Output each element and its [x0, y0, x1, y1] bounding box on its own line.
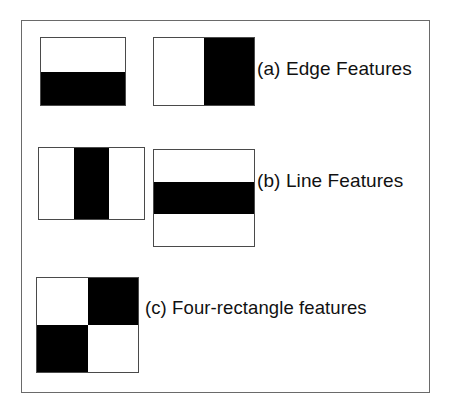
caption-line-features: (b) Line Features: [257, 171, 403, 190]
line-feature-vertical-bands: [38, 147, 145, 220]
edge-feature-vertical-split: [153, 37, 255, 106]
black-region-bottom: [41, 72, 125, 106]
edge-feature-horizontal-split: [40, 37, 126, 106]
black-region-center-column: [74, 148, 109, 219]
line-feature-horizontal-bands: [153, 149, 255, 247]
black-region-bottom-left: [37, 325, 88, 372]
figure-frame: (a) Edge Features (b) Line Features (c) …: [21, 20, 430, 393]
black-region-right: [204, 38, 254, 105]
figure-root: (a) Edge Features (b) Line Features (c) …: [0, 0, 450, 413]
caption-edge-features: (a) Edge Features: [257, 59, 412, 78]
black-region-center-row: [154, 182, 254, 214]
black-region-top-right: [88, 278, 139, 325]
caption-four-rectangle-features: (c) Four-rectangle features: [145, 299, 367, 318]
four-rectangle-feature: [36, 277, 139, 373]
